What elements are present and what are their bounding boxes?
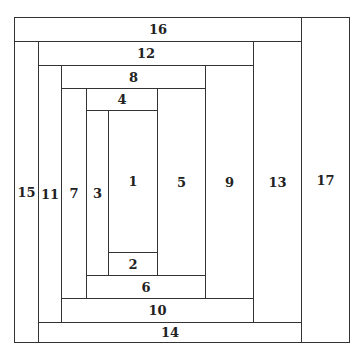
block-label: 4	[117, 92, 126, 107]
block-label: 11	[41, 187, 59, 202]
block-5: 5	[157, 88, 206, 276]
block-label: 10	[148, 303, 166, 318]
block-12: 12	[38, 41, 254, 66]
block-label: 14	[161, 325, 179, 340]
block-label: 8	[129, 70, 138, 85]
block-10: 10	[61, 298, 254, 323]
block-label: 5	[177, 175, 186, 190]
block-13: 13	[253, 41, 302, 323]
block-2: 2	[108, 252, 158, 276]
block-label: 1	[128, 174, 137, 189]
block-label: 15	[17, 185, 35, 200]
block-17: 17	[301, 17, 350, 343]
block-label: 16	[149, 22, 167, 37]
block-3: 3	[86, 110, 109, 276]
block-6: 6	[86, 275, 206, 299]
block-14: 14	[38, 322, 302, 343]
block-label: 2	[128, 257, 137, 272]
block-16: 16	[14, 17, 302, 42]
block-4: 4	[86, 88, 158, 111]
log-cabin-diagram: 1617151213141189107456312	[0, 0, 358, 351]
block-8: 8	[61, 65, 206, 89]
block-label: 9	[225, 175, 234, 190]
block-label: 17	[316, 173, 334, 188]
block-label: 6	[141, 280, 150, 295]
block-label: 7	[69, 186, 78, 201]
block-15: 15	[14, 41, 39, 343]
block-1: 1	[108, 110, 158, 253]
block-label: 3	[93, 186, 102, 201]
block-9: 9	[205, 65, 254, 299]
block-label: 12	[137, 46, 155, 61]
block-7: 7	[61, 88, 87, 299]
block-11: 11	[38, 65, 62, 323]
block-label: 13	[268, 175, 286, 190]
